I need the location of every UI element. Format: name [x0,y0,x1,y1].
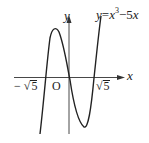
equation-minus-five: −5 [119,7,133,22]
x-axis-label: x [127,69,133,82]
origin-label: O [52,80,61,92]
cubic-graph-figure: y=x3−5x x y O − √5 √5 [0,0,149,143]
radicand: 5 [30,80,37,92]
equation-x2: x [133,7,139,22]
positive-root-label: √5 [96,80,110,92]
sqrt-icon: √ [96,79,103,93]
negative-sign: − [14,79,21,93]
negative-root-label: − √5 [14,80,37,92]
radicand: 5 [103,80,110,92]
equation-label: y=x3−5x [96,7,139,21]
sqrt-icon: √ [24,79,31,93]
x-axis-arrow-icon [117,75,125,80]
cubic-curve [40,16,101,134]
y-axis-label: y [64,9,70,22]
